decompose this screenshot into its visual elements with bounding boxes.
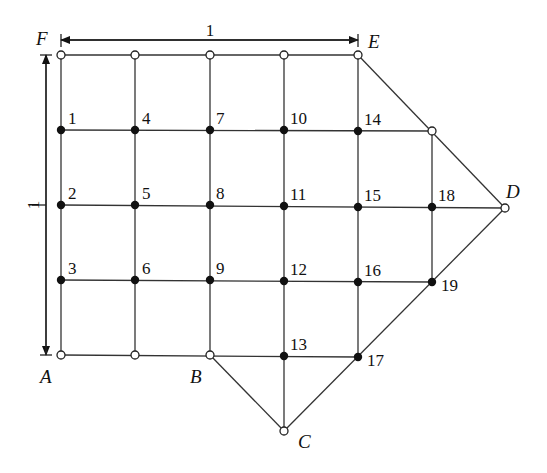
node-label-1: 1 — [68, 109, 77, 128]
node-label-17: 17 — [367, 351, 385, 370]
interior-nodes — [57, 126, 436, 361]
corner-labels: F E D C B A — [35, 28, 520, 452]
node-label-7: 7 — [216, 109, 225, 128]
node-label-19: 19 — [441, 276, 458, 295]
corner-label-a: A — [38, 366, 52, 387]
node-label-15: 15 — [364, 186, 381, 205]
node-label-9: 9 — [216, 259, 225, 278]
node-label-16: 16 — [364, 261, 381, 280]
node-label-14: 14 — [364, 110, 382, 129]
horizontal-dimension-label: 1 — [206, 21, 215, 40]
node-label-13: 13 — [290, 335, 307, 354]
node-label-4: 4 — [142, 109, 151, 128]
corner-label-d: D — [505, 181, 520, 202]
node-label-6: 6 — [142, 259, 151, 278]
node-label-2: 2 — [68, 184, 77, 203]
grid-lines — [61, 55, 505, 431]
corner-label-c: C — [298, 431, 311, 452]
node-label-3: 3 — [68, 259, 77, 278]
vertical-dimension-label: 1 — [24, 201, 43, 210]
corner-label-e: E — [367, 31, 380, 52]
finite-difference-grid-diagram: 1 1 — [0, 0, 547, 473]
boundary-nodes — [57, 51, 509, 435]
node-labels: 1 2 3 4 5 6 7 8 9 10 11 12 13 14 15 16 1… — [68, 109, 458, 370]
corner-label-b: B — [190, 366, 202, 387]
node-label-11: 11 — [290, 185, 306, 204]
node-label-12: 12 — [290, 260, 307, 279]
node-label-18: 18 — [438, 186, 455, 205]
corner-label-f: F — [35, 28, 48, 49]
node-label-10: 10 — [290, 109, 307, 128]
node-label-5: 5 — [142, 184, 151, 203]
node-label-8: 8 — [216, 184, 225, 203]
